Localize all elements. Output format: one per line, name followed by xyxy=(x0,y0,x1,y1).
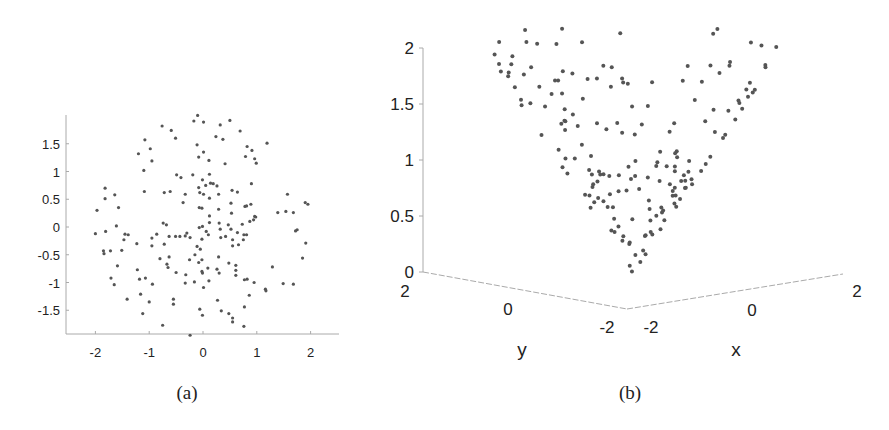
a-data-point xyxy=(306,203,309,206)
a-data-point xyxy=(202,121,205,124)
b-data-point xyxy=(620,131,624,135)
b-data-point xyxy=(620,76,624,80)
b-data-point xyxy=(628,264,632,268)
a-data-point xyxy=(193,253,196,256)
a-data-point xyxy=(165,223,168,226)
b-data-point xyxy=(744,88,748,92)
a-data-point xyxy=(175,271,178,274)
a-data-point xyxy=(209,182,212,185)
b-ytick-label: -2 xyxy=(599,318,614,337)
a-data-point xyxy=(113,193,116,196)
a-data-point xyxy=(196,114,199,117)
a-xtick-label: 1 xyxy=(253,345,260,360)
a-data-point xyxy=(276,211,279,214)
panel-b-scatter3d: 00.511.52 2 0 -2 -2 0 2 y x (b) xyxy=(390,27,861,404)
b-data-point xyxy=(647,198,651,202)
a-data-point xyxy=(242,238,245,241)
b-data-point xyxy=(674,205,678,209)
b-data-point xyxy=(540,133,544,137)
a-data-point xyxy=(282,282,285,285)
b-data-point xyxy=(618,31,622,35)
b-data-point xyxy=(497,40,501,44)
a-data-point xyxy=(163,191,166,194)
b-ytick-label: 0 xyxy=(503,300,512,319)
b-data-point xyxy=(665,164,669,168)
a-data-point xyxy=(161,124,164,127)
panel-b-x-axis xyxy=(627,274,843,309)
b-data-point xyxy=(654,164,658,168)
b-data-point xyxy=(713,130,717,134)
a-data-point xyxy=(185,232,188,235)
a-data-point xyxy=(304,201,307,204)
b-data-point xyxy=(621,234,625,238)
b-data-point xyxy=(520,103,524,107)
a-data-point xyxy=(175,173,178,176)
b-data-point xyxy=(668,130,672,134)
a-data-point xyxy=(248,220,251,223)
a-xtick-label: 0 xyxy=(199,345,206,360)
a-ytick-label: 0.5 xyxy=(42,192,60,207)
a-data-point xyxy=(191,173,194,176)
a-data-point xyxy=(174,137,177,140)
a-data-point xyxy=(253,157,256,160)
a-data-point xyxy=(200,207,203,210)
b-xtick-label: 2 xyxy=(852,282,861,301)
b-data-point xyxy=(559,122,563,126)
a-data-point xyxy=(104,230,107,233)
b-data-point xyxy=(610,65,614,69)
b-data-point xyxy=(609,85,613,89)
b-data-point xyxy=(712,108,716,112)
a-ytick-label: -1.5 xyxy=(38,303,60,318)
a-data-point xyxy=(141,312,144,315)
b-data-point xyxy=(690,177,694,181)
a-data-point xyxy=(192,119,195,122)
a-data-point xyxy=(246,278,249,281)
b-data-point xyxy=(679,179,683,183)
b-data-point xyxy=(633,253,637,257)
b-data-point xyxy=(700,80,704,84)
b-data-point xyxy=(543,105,547,109)
b-data-point xyxy=(641,248,645,252)
b-data-point xyxy=(510,54,514,58)
a-data-point xyxy=(195,245,198,248)
b-data-point xyxy=(633,174,637,178)
b-data-point xyxy=(746,95,750,99)
a-data-point xyxy=(94,232,97,235)
a-data-point xyxy=(148,300,151,303)
b-data-point xyxy=(687,159,691,163)
a-data-point xyxy=(113,283,116,286)
b-data-point xyxy=(674,194,678,198)
a-data-point xyxy=(142,169,145,172)
b-data-point xyxy=(507,71,511,75)
b-data-point xyxy=(570,71,574,75)
a-data-point xyxy=(109,276,112,279)
b-data-point xyxy=(561,165,565,169)
b-data-point xyxy=(595,121,599,125)
b-ztick-label: 0 xyxy=(405,263,414,282)
a-data-point xyxy=(219,228,222,231)
b-data-point xyxy=(497,62,501,66)
b-data-point xyxy=(523,28,527,32)
b-data-point xyxy=(589,206,593,210)
b-data-point xyxy=(556,79,560,83)
a-data-point xyxy=(208,197,211,200)
a-data-point xyxy=(217,255,220,258)
b-data-point xyxy=(560,91,564,95)
b-data-point xyxy=(524,40,528,44)
b-data-point xyxy=(563,119,567,123)
b-data-point xyxy=(554,42,558,46)
a-data-point xyxy=(215,184,218,187)
b-data-point xyxy=(499,69,503,73)
a-data-point xyxy=(245,204,248,207)
a-data-point xyxy=(200,238,203,241)
b-data-point xyxy=(693,98,697,102)
a-data-point xyxy=(184,281,187,284)
b-data-point xyxy=(659,205,663,209)
a-data-point xyxy=(102,252,105,255)
b-data-point xyxy=(654,214,658,218)
b-data-point xyxy=(601,199,605,203)
b-data-point xyxy=(493,53,497,57)
a-data-point xyxy=(201,178,204,181)
b-data-point xyxy=(561,69,565,73)
b-data-point xyxy=(630,269,634,273)
